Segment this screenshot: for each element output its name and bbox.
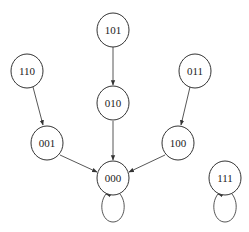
- node-101: 101: [97, 13, 129, 47]
- self-loop-000: [102, 194, 124, 222]
- nodes: 101 110 011 010 001 100 000 111: [11, 13, 241, 195]
- svg-text:100: 100: [170, 137, 187, 149]
- svg-text:001: 001: [39, 137, 56, 149]
- node-000: 000: [97, 161, 129, 195]
- svg-text:101: 101: [105, 24, 122, 36]
- node-001: 001: [31, 126, 63, 160]
- svg-text:010: 010: [105, 97, 122, 109]
- node-011: 011: [179, 54, 211, 88]
- edge-110-001: [33, 87, 43, 125]
- svg-text:011: 011: [187, 65, 203, 77]
- edge-011-100: [181, 87, 190, 125]
- node-110: 110: [11, 54, 43, 88]
- self-loop-111: [214, 194, 236, 222]
- svg-text:110: 110: [19, 65, 36, 77]
- node-010: 010: [97, 86, 129, 120]
- node-111: 111: [209, 161, 241, 195]
- edge-001-000: [60, 155, 97, 172]
- edge-100-000: [129, 155, 165, 172]
- state-diagram: 101 110 011 010 001 100 000 111: [0, 0, 249, 232]
- svg-text:111: 111: [217, 172, 233, 184]
- node-100: 100: [162, 126, 194, 160]
- svg-text:000: 000: [105, 172, 122, 184]
